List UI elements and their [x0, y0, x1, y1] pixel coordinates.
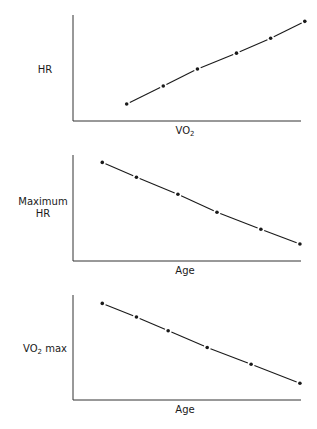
data-point [298, 381, 302, 385]
data-point [259, 227, 263, 231]
data-point [100, 161, 104, 165]
data-point [235, 51, 239, 55]
data-point [166, 329, 170, 333]
y-axis-label: VO2 max [18, 343, 72, 355]
series-line-segment [201, 54, 234, 67]
data-series [125, 20, 307, 106]
series-line-segment [181, 196, 214, 211]
data-point [135, 175, 139, 179]
x-axis-label: Age [160, 404, 210, 415]
y-axis-label: HR [28, 64, 62, 76]
series-line-segment [130, 88, 160, 103]
data-point [125, 102, 129, 106]
series-line-segment [220, 214, 257, 228]
chart-vo2max-vs-age: VO2 max Age [0, 280, 317, 429]
series-line-segment [240, 40, 268, 52]
series-line-segment [140, 318, 165, 329]
x-axis-label: Age [160, 265, 210, 276]
series-line-segment [140, 179, 175, 193]
x-axis-label: VO2 [160, 125, 210, 136]
data-point [161, 84, 165, 88]
data-series [100, 161, 301, 246]
data-point [269, 37, 273, 41]
data-point [303, 20, 307, 24]
series-line-segment [254, 366, 296, 382]
data-point [249, 363, 253, 367]
data-point [100, 302, 104, 306]
y-axis-label: Maximum HR [14, 196, 72, 220]
series-line-segment [166, 71, 194, 85]
series-line-segment [264, 230, 296, 242]
data-point [135, 315, 139, 319]
data-point [205, 346, 209, 350]
series-line-segment [105, 164, 133, 176]
series-line-segment [210, 349, 247, 363]
chart-maxhr-vs-age: Maximum HR Age [0, 140, 317, 280]
series-line-segment [274, 23, 302, 37]
data-point [215, 210, 219, 214]
data-point [176, 192, 180, 196]
series-line-segment [106, 305, 134, 316]
data-point [196, 67, 200, 71]
series-line-segment [171, 332, 204, 346]
chart-hr-vs-vo2: HR VO2 [0, 0, 317, 140]
data-series [100, 302, 301, 385]
data-point [298, 242, 302, 246]
